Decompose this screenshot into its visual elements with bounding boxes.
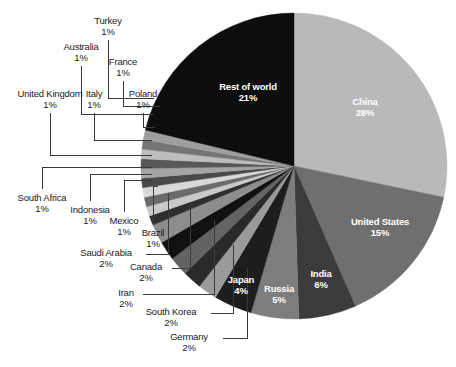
slice-label-japan: Japan 4% bbox=[219, 274, 263, 296]
callout-poland: Poland 1% bbox=[120, 89, 166, 110]
callout-turkey-value: 1% bbox=[80, 27, 136, 38]
callout-canada-name: Canada bbox=[122, 262, 170, 273]
callout-brazil-name: Brazil bbox=[132, 228, 174, 239]
callout-iran: Iran 2% bbox=[110, 288, 142, 309]
callout-south-korea: South Korea 2% bbox=[133, 307, 209, 328]
slice-label-china-name: China bbox=[330, 96, 400, 107]
callout-france: France 1% bbox=[98, 57, 148, 78]
slice-label-india-value: 6% bbox=[299, 279, 343, 290]
callout-italy: Italy 1% bbox=[78, 89, 110, 110]
callout-germany: Germany 2% bbox=[157, 332, 221, 353]
slice-label-china: China 28% bbox=[330, 96, 400, 118]
slice-label-united-states-value: 15% bbox=[337, 227, 423, 238]
callout-poland-value: 1% bbox=[120, 100, 166, 111]
slice-label-japan-name: Japan bbox=[219, 274, 263, 285]
slice-label-united-states: United States 15% bbox=[337, 216, 423, 238]
callout-australia-name: Australia bbox=[51, 42, 111, 53]
slice-label-rest-of-world-value: 21% bbox=[203, 92, 293, 103]
slice-label-rest-of-world-name: Rest of world bbox=[203, 81, 293, 92]
callout-germany-name: Germany bbox=[157, 332, 221, 343]
callout-south-korea-value: 2% bbox=[133, 318, 209, 329]
pie-chart-figure: China 28% United States 15% India 6% Rus… bbox=[0, 0, 456, 367]
callout-canada-value: 2% bbox=[122, 273, 170, 284]
callout-germany-value: 2% bbox=[157, 343, 221, 354]
callout-brazil: Brazil 1% bbox=[132, 228, 174, 249]
slice-label-united-states-name: United States bbox=[337, 216, 423, 227]
callout-canada: Canada 2% bbox=[122, 262, 170, 283]
slice-label-china-value: 28% bbox=[330, 107, 400, 118]
callout-turkey: Turkey 1% bbox=[80, 16, 136, 37]
callout-mexico-name: Mexico bbox=[100, 216, 148, 227]
callout-turkey-name: Turkey bbox=[80, 16, 136, 27]
callout-indonesia-name: Indonesia bbox=[60, 205, 120, 216]
callout-italy-name: Italy bbox=[78, 89, 110, 100]
callout-italy-value: 1% bbox=[78, 100, 110, 111]
callout-iran-name: Iran bbox=[110, 288, 142, 299]
callout-poland-name: Poland bbox=[120, 89, 166, 100]
leader-line-south-africa bbox=[42, 167, 152, 189]
slice-label-japan-value: 4% bbox=[219, 285, 263, 296]
callout-france-name: France bbox=[98, 57, 148, 68]
slice-label-india-name: India bbox=[299, 268, 343, 279]
leader-line-united-kingdom bbox=[50, 113, 152, 155]
pie-slices-group bbox=[141, 13, 447, 319]
slice-label-rest-of-world: Rest of world 21% bbox=[203, 81, 293, 103]
callout-south-korea-name: South Korea bbox=[133, 307, 209, 318]
slice-label-india: India 6% bbox=[299, 268, 343, 290]
callout-south-africa-name: South Africa bbox=[5, 193, 79, 204]
callout-saudi-arabia-name: Saudi Arabia bbox=[68, 248, 144, 259]
callout-france-value: 1% bbox=[98, 68, 148, 79]
